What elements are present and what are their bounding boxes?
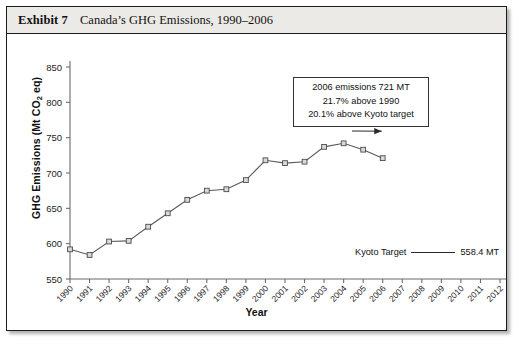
svg-text:750: 750	[46, 132, 62, 143]
annotation-callout: 2006 emissions 721 MT 21.7% above 1990 2…	[293, 77, 429, 127]
svg-text:2011: 2011	[465, 283, 485, 303]
svg-text:1997: 1997	[191, 283, 212, 304]
svg-text:2010: 2010	[445, 283, 466, 304]
svg-text:2008: 2008	[406, 283, 427, 304]
svg-text:1991: 1991	[74, 283, 95, 304]
svg-text:1999: 1999	[230, 283, 251, 304]
exhibit-header: Exhibit 7 Canada’s GHG Emissions, 1990–2…	[7, 7, 506, 34]
svg-text:650: 650	[46, 203, 62, 214]
legend-label: Kyoto Target	[355, 247, 406, 257]
annotation-line-1: 2006 emissions 721 MT	[298, 81, 424, 95]
svg-text:600: 600	[46, 238, 62, 249]
kyoto-target-legend: Kyoto Target 558.4 MT	[355, 247, 499, 257]
svg-text:2009: 2009	[426, 283, 447, 304]
svg-text:800: 800	[46, 97, 62, 108]
svg-text:2000: 2000	[250, 283, 271, 304]
svg-text:2012: 2012	[484, 283, 505, 304]
exhibit-title: Canada’s GHG Emissions, 1990–2006	[80, 13, 273, 28]
ghg-emissions-line-chart: 8508007507006506005501990199119921993199…	[7, 34, 507, 331]
chart-plot-panel: 8508007507006506005501990199119921993199…	[7, 34, 506, 331]
svg-text:850: 850	[46, 62, 62, 73]
legend-line-swatch	[411, 252, 455, 253]
svg-text:1998: 1998	[211, 283, 232, 304]
svg-text:2002: 2002	[289, 283, 310, 304]
svg-text:1995: 1995	[152, 283, 173, 304]
svg-text:1990: 1990	[54, 283, 75, 304]
svg-text:1993: 1993	[113, 283, 134, 304]
svg-text:550: 550	[46, 274, 62, 285]
y-axis-label: GHG Emissions (Mt CO2 eq)	[30, 53, 42, 243]
exhibit-label: Exhibit 7	[18, 13, 68, 28]
x-axis-label: Year	[7, 306, 506, 318]
annotation-line-3: 20.1% above Kyoto target	[298, 108, 424, 122]
svg-text:2001: 2001	[269, 283, 290, 304]
svg-text:2006: 2006	[367, 283, 388, 304]
exhibit-frame: Exhibit 7 Canada’s GHG Emissions, 1990–2…	[6, 6, 507, 331]
svg-text:1996: 1996	[172, 283, 193, 304]
legend-value: 558.4 MT	[460, 247, 499, 257]
svg-text:700: 700	[46, 168, 62, 179]
svg-text:2004: 2004	[328, 283, 349, 304]
svg-text:1992: 1992	[94, 283, 115, 304]
svg-text:1994: 1994	[133, 283, 154, 304]
svg-text:2003: 2003	[309, 283, 330, 304]
annotation-line-2: 21.7% above 1990	[298, 95, 424, 109]
svg-text:2005: 2005	[348, 283, 369, 304]
svg-text:2007: 2007	[387, 283, 408, 304]
